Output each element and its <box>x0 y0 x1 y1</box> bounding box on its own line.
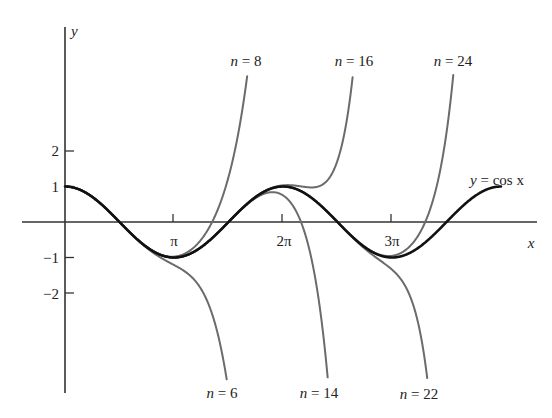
label-n14-text: = 14 <box>307 385 338 401</box>
label-cos-text: = cos x <box>477 172 525 188</box>
y-axis-label: y <box>69 23 78 39</box>
curves-group <box>65 75 501 379</box>
label-n24-text: = 24 <box>441 53 472 69</box>
y-tick-label-m2: −2 <box>43 286 59 302</box>
y-tick-label-2: 2 <box>52 143 60 159</box>
label-n6-text: = 6 <box>214 385 238 401</box>
y-tick-label-1: 1 <box>52 179 60 195</box>
label-n8: n = 8 <box>231 53 262 69</box>
label-n16-text: = 16 <box>342 53 373 69</box>
label-n22-text: = 22 <box>407 386 438 402</box>
x-axis-label: x <box>527 235 535 251</box>
x-tick-label-pi: π <box>170 233 178 249</box>
curve-n-16 <box>65 77 353 257</box>
label-n22: n = 22 <box>400 386 438 402</box>
label-n16: n = 16 <box>335 53 374 69</box>
curve-n-22 <box>65 187 427 379</box>
curve-n-6 <box>65 187 227 380</box>
y-tick-label-m1: −1 <box>43 250 59 266</box>
label-n8-text: = 8 <box>238 53 261 69</box>
taylor-cos-chart: π 2π 3π 2 1 −1 −2 y x n = 8 n = 16 n = 2… <box>0 0 552 418</box>
label-n6: n = 6 <box>207 385 238 401</box>
label-cos: y = cos x <box>468 172 524 188</box>
label-n14: n = 14 <box>300 385 339 401</box>
curve-n-24 <box>65 75 453 257</box>
label-n24: n = 24 <box>434 53 473 69</box>
x-tick-label-3pi: 3π <box>384 233 400 249</box>
x-tick-label-2pi: 2π <box>276 233 292 249</box>
